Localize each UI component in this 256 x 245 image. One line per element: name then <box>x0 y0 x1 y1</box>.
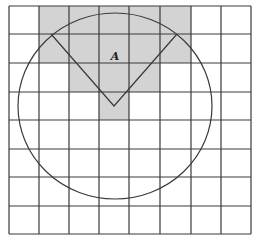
diagram-canvas: A <box>0 0 256 245</box>
shaded-cell <box>69 34 99 63</box>
shaded-cell <box>160 6 191 34</box>
shaded-cell <box>99 63 129 92</box>
shaded-cell <box>129 63 160 92</box>
grid-circle-diagram: A <box>0 0 256 245</box>
shaded-cell <box>129 6 160 34</box>
shaded-cell <box>99 6 129 34</box>
region-label-a: A <box>110 50 120 63</box>
shaded-cell <box>69 63 99 92</box>
shaded-cell <box>69 6 99 34</box>
shaded-cell <box>39 34 69 63</box>
shaded-cell <box>39 6 69 34</box>
